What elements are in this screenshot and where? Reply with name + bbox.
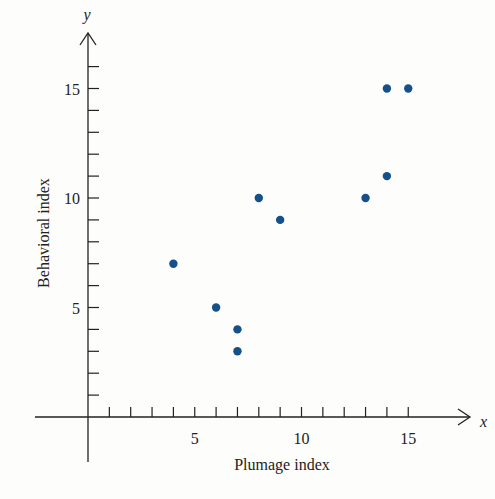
- data-point: [276, 216, 284, 224]
- y-tick-label: 15: [64, 81, 80, 98]
- scatter-chart: 51015 51015 x y Plumage index Behavioral…: [0, 0, 495, 499]
- x-axis-variable: x: [479, 413, 487, 430]
- x-tick-labels: 51015: [191, 430, 417, 447]
- data-point: [212, 303, 220, 311]
- data-point: [383, 84, 391, 92]
- y-axis-variable: y: [81, 6, 91, 24]
- data-points: [169, 84, 412, 355]
- x-tick-label: 5: [191, 430, 199, 447]
- y-tick-label: 5: [72, 300, 80, 317]
- axes: [35, 33, 470, 462]
- x-tick-label: 10: [294, 430, 310, 447]
- y-ticks: [88, 67, 99, 396]
- x-axis-title: Plumage index: [234, 456, 330, 474]
- x-tick-label: 15: [400, 430, 416, 447]
- x-ticks: [109, 407, 408, 417]
- data-point: [233, 325, 241, 333]
- data-point: [404, 84, 412, 92]
- y-tick-labels: 51015: [64, 81, 80, 317]
- data-point: [361, 194, 369, 202]
- data-point: [169, 260, 177, 268]
- data-point: [255, 194, 263, 202]
- data-point: [383, 172, 391, 180]
- y-axis-title: Behavioral index: [35, 178, 52, 288]
- data-point: [233, 347, 241, 355]
- y-tick-label: 10: [64, 190, 80, 207]
